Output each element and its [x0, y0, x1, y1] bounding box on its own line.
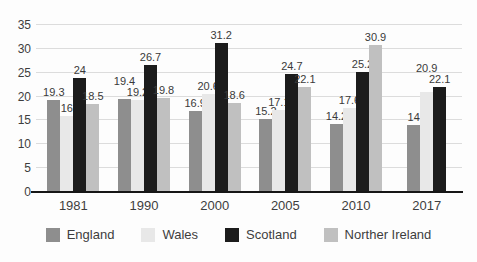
- legend-label: Scotland: [246, 227, 297, 242]
- bar-norther-ireland: 18.6: [228, 103, 241, 192]
- bar-group-1990: 19.419.226.719.8: [109, 25, 180, 192]
- bar-england: 16.9: [189, 111, 202, 192]
- bar-value-label: 16: [61, 102, 73, 114]
- legend: EnglandWalesScotlandNorther Ireland: [0, 227, 477, 242]
- bar-chart: 05101520253035 19.3162418.519.419.226.71…: [0, 0, 477, 262]
- bar-england: 19.4: [118, 99, 131, 192]
- y-tick-label: 25: [0, 66, 31, 80]
- bar-norther-ireland: 30.9: [369, 45, 382, 192]
- bar-wales: 20.6: [202, 94, 215, 192]
- legend-item-wales: Wales: [141, 227, 198, 242]
- bar-value-label: 22.1: [294, 73, 315, 85]
- bar-group-2017: 1420.922.1: [391, 25, 462, 192]
- bar-norther-ireland: 22.1: [298, 87, 311, 192]
- y-tick-label: 30: [0, 42, 31, 56]
- bar-wales: 16: [60, 116, 73, 192]
- bar-scotland: 31.2: [215, 43, 228, 192]
- legend-swatch: [225, 228, 239, 242]
- x-tick-label: 1990: [109, 198, 180, 213]
- x-axis-line: [31, 191, 463, 194]
- legend-item-england: England: [46, 227, 115, 242]
- bar-value-label: 18.6: [223, 89, 244, 101]
- y-tick-label: 15: [0, 113, 31, 127]
- bar-groups: 19.3162418.519.419.226.719.816.920.631.2…: [38, 25, 462, 192]
- bar-scotland: 24.7: [285, 74, 298, 192]
- bar-value-label: 19.3: [43, 86, 64, 98]
- y-tick-label: 5: [0, 161, 31, 175]
- x-tick-label: 2000: [179, 198, 250, 213]
- y-tick-label: 0: [0, 185, 31, 199]
- bar-group-1981: 19.3162418.5: [38, 25, 109, 192]
- x-tick-label: 2010: [321, 198, 392, 213]
- legend-item-scotland: Scotland: [225, 227, 297, 242]
- bar-value-label: 22.1: [429, 73, 450, 85]
- x-tick-label: 2017: [391, 198, 462, 213]
- bar-england: 19.3: [47, 100, 60, 192]
- bar-value-label: 18.5: [82, 90, 103, 102]
- bar-wales: 20.9: [420, 92, 433, 192]
- legend-swatch: [324, 228, 338, 242]
- legend-label: Norther Ireland: [345, 227, 432, 242]
- bar-value-label: 19.8: [153, 84, 174, 96]
- bar-value-label: 24: [74, 64, 86, 76]
- y-axis: 05101520253035: [0, 25, 31, 192]
- legend-label: Wales: [162, 227, 198, 242]
- y-tick-label: 10: [0, 137, 31, 151]
- bar-group-2005: 15.217.124.722.1: [250, 25, 321, 192]
- bar-value-label: 24.7: [281, 60, 302, 72]
- bar-value-label: 26.7: [140, 51, 161, 63]
- legend-swatch: [46, 228, 60, 242]
- legend-item-norther-ireland: Norther Ireland: [324, 227, 432, 242]
- bar-group-2010: 14.217.625.230.9: [321, 25, 392, 192]
- bar-wales: 17.1: [272, 110, 285, 192]
- bar-wales: 19.2: [131, 100, 144, 192]
- bar-england: 15.2: [259, 119, 272, 192]
- legend-swatch: [141, 228, 155, 242]
- y-tick-label: 35: [0, 18, 31, 32]
- bar-norther-ireland: 19.8: [157, 98, 170, 192]
- x-tick-label: 1981: [38, 198, 109, 213]
- bar-england: 14: [407, 125, 420, 192]
- bar-value-label: 31.2: [210, 29, 231, 41]
- bar-england: 14.2: [330, 124, 343, 192]
- bar-wales: 17.6: [343, 108, 356, 192]
- bar-group-2000: 16.920.631.218.6: [179, 25, 250, 192]
- y-tick-label: 20: [0, 90, 31, 104]
- bar-norther-ireland: 18.5: [86, 104, 99, 192]
- bar-value-label: 14: [408, 111, 420, 123]
- bar-value-label: 30.9: [365, 31, 386, 43]
- x-tick-label: 2005: [250, 198, 321, 213]
- bar-scotland: 22.1: [433, 87, 446, 192]
- x-axis: 198119902000200520102017: [38, 198, 462, 213]
- legend-label: England: [67, 227, 115, 242]
- bar-scotland: 25.2: [356, 72, 369, 192]
